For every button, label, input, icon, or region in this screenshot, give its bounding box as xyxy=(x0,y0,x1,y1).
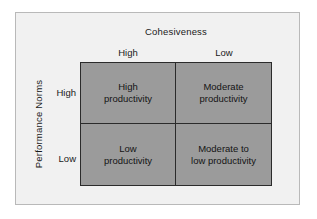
matrix-figure: Cohesiveness High Low Performance Norms … xyxy=(0,0,317,219)
row-header-low: Low xyxy=(48,153,76,164)
quadrant-high-high-label: High productivity xyxy=(104,81,152,105)
column-header-high: High xyxy=(80,47,176,58)
column-header-low: Low xyxy=(176,47,272,58)
quadrant-low-low-label: Moderate to low productivity xyxy=(191,143,256,167)
left-axis-title: Performance Norms xyxy=(33,80,44,168)
row-header-high: High xyxy=(48,87,76,98)
quadrant-low-high: Low productivity xyxy=(81,124,176,185)
quadrant-high-low: Moderate productivity xyxy=(176,63,271,124)
quadrant-matrix: High productivity Moderate productivity … xyxy=(80,62,272,186)
top-axis-title: Cohesiveness xyxy=(80,26,272,37)
quadrant-low-low: Moderate to low productivity xyxy=(176,124,271,185)
quadrant-low-high-label: Low productivity xyxy=(104,143,152,167)
quadrant-high-low-label: Moderate productivity xyxy=(199,81,247,105)
quadrant-high-high: High productivity xyxy=(81,63,176,124)
